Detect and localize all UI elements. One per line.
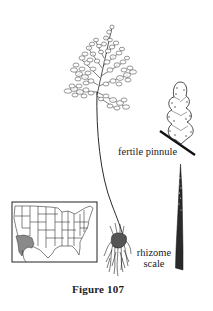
figure-caption: Figure 107	[72, 283, 124, 295]
distribution-map	[0, 0, 213, 311]
